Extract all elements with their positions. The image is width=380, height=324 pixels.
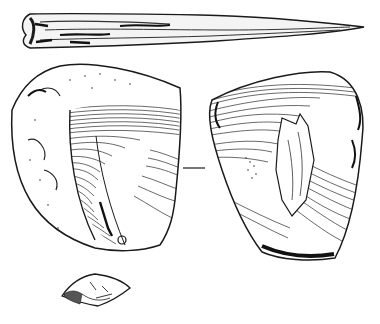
core-view-right	[205, 72, 370, 260]
small-fragment	[62, 274, 130, 306]
illustration-plate	[0, 0, 380, 324]
bone-point	[23, 14, 364, 48]
core-view-left	[12, 64, 190, 250]
